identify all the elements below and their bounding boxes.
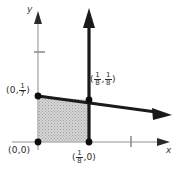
label-corner-open: ( [90,74,94,84]
point-x-intercept [86,139,93,146]
label-x-intercept: ( 1 8 ,0) [72,150,96,166]
label-corner-y-denominator: 8 [105,80,112,87]
y-axis-label: y [27,5,33,14]
label-corner-point: ( 1 8 , 1 8 ) [90,72,116,88]
label-x-intercept-open: ( [72,152,76,162]
x-axis-label: x [166,146,172,155]
label-y-intercept-fraction: 1 7 [19,83,26,99]
vertical-constraint-arrowhead [83,8,95,28]
label-y-intercept-open: (0, [6,85,19,95]
point-corner [86,97,93,104]
y-axis-arrowhead [34,11,42,24]
point-y-intercept [35,93,42,100]
label-x-intercept-denominator: 8 [76,158,83,165]
graph-figure: y x (0, 1 7 ) ( 1 8 , 1 8 ) (0,0) ( 1 8 … [0,0,182,185]
label-x-intercept-fraction: 1 8 [76,150,83,166]
label-corner-fraction-x: 1 8 [94,72,101,88]
sloped-constraint-arrowhead [152,108,172,120]
label-x-intercept-close: ,0) [83,152,96,162]
label-y-intercept-denominator: 7 [19,91,26,98]
label-corner-fraction-y: 1 8 [105,72,112,88]
label-corner-close: ) [112,74,116,84]
point-origin [35,139,42,146]
label-y-intercept-close: ) [26,85,30,95]
label-y-intercept: (0, 1 7 ) [6,83,30,99]
label-origin: (0,0) [8,146,30,155]
label-corner-x-denominator: 8 [94,80,101,87]
